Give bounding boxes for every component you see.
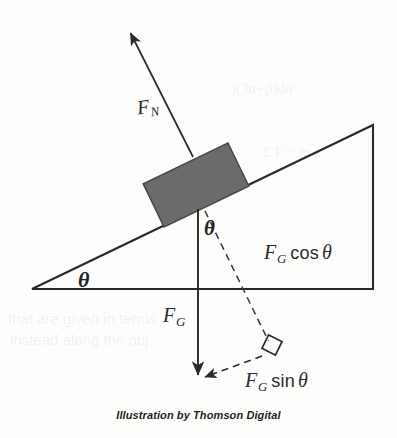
right-angle-marker [262, 335, 282, 355]
block-angle-label: θ [204, 218, 215, 239]
gravity-sin-operator: sin [271, 371, 295, 391]
right-angle-square [262, 335, 282, 355]
incline-angle-label: θ [78, 269, 89, 291]
block [143, 143, 249, 227]
block-body [143, 143, 249, 227]
gravity-cos-symbol: F [264, 241, 276, 263]
figure-caption: Illustration by Thomson Digital [0, 409, 397, 421]
gravity-sin-label: FGsinθ [245, 370, 308, 393]
gravity-sin-subscript: G [258, 379, 267, 394]
gravity-sin-angle: θ [298, 369, 308, 391]
gravity-cos-subscript: G [277, 251, 286, 266]
gravity-force-symbol: F [163, 304, 175, 326]
normal-force-label: FN [136, 95, 161, 121]
gravity-cos-label: FGcosθ [264, 242, 332, 265]
gravity-force-label: FG [163, 305, 185, 328]
normal-force-subscript: N [150, 103, 161, 119]
gravity-cos-angle: θ [322, 241, 332, 263]
normal-force-symbol: F [135, 95, 150, 119]
diagram-canvas [0, 0, 397, 438]
gravity-force-subscript: G [176, 314, 185, 329]
gravity-cos-operator: cos [290, 243, 319, 263]
gravity-sin-symbol: F [245, 369, 257, 391]
force-diagram-figure: ∫(3α+β)dα Σ F = m a that are given in te… [0, 0, 397, 438]
